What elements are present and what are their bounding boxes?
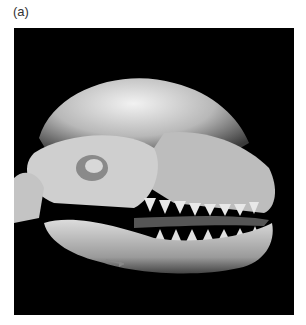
figure-label: (a) [13,4,29,19]
ct-skull-image [14,28,294,315]
skull-render-icon [14,28,294,315]
